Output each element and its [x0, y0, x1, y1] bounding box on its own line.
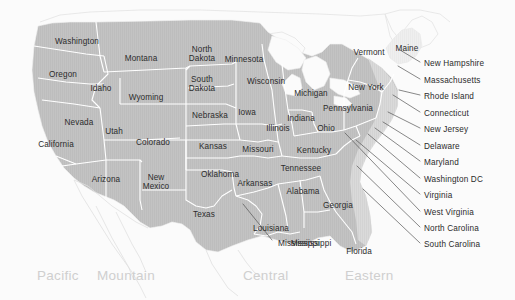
state-label-line: Vermont	[353, 48, 384, 57]
state-label-georgia: Georgia	[323, 201, 353, 210]
state-label-colorado: Colorado	[136, 138, 170, 147]
state-label-line: Arizona	[92, 175, 120, 184]
state-label-louisiana: Louisiana	[253, 224, 289, 233]
state-label-maine: Maine	[396, 44, 419, 53]
us-timezone-map: WashingtonOregonMontanaIdahoWyomingNorth…	[0, 0, 515, 300]
state-label-line: Dakota	[189, 54, 216, 63]
state-label-line: Michigan	[294, 89, 328, 98]
state-label-line: Ohio	[317, 124, 335, 133]
state-label-line: North	[189, 45, 216, 54]
state-label-indiana: Indiana	[287, 114, 315, 123]
state-label-south-dakota: SouthDakota	[189, 75, 216, 94]
state-label-line: Alabama	[286, 187, 319, 196]
state-label-missouri: Missouri	[242, 145, 273, 154]
state-label-line: Oklahoma	[201, 170, 239, 179]
state-label-line: Tennessee	[281, 164, 322, 173]
callout-label-virginia: Virginia	[424, 191, 452, 200]
callout-label-new-hampshire: New Hampshire	[424, 59, 484, 68]
state-label-arizona: Arizona	[92, 175, 120, 184]
state-label-ohio: Ohio	[317, 124, 335, 133]
state-label-line: New York	[348, 83, 383, 92]
state-label-idaho: Idaho	[91, 84, 112, 93]
callout-label-north-carolina: North Carolina	[424, 224, 479, 233]
callout-label-connecticut: Connecticut	[424, 109, 469, 118]
callout-label-rhode-island: Rhode Island	[424, 92, 474, 101]
state-label-utah: Utah	[105, 127, 123, 136]
state-label-kansas: Kansas	[199, 142, 227, 151]
state-label-wisconsin: Wisconsin	[247, 77, 285, 86]
callout-label-delaware: Delaware	[424, 142, 460, 151]
state-label-line: South	[189, 75, 216, 84]
state-label-line: New	[143, 173, 170, 182]
state-label-line: Wisconsin	[247, 77, 285, 86]
state-label-washington: Washington	[55, 37, 99, 46]
callout-label-mississippi: Mississippi	[278, 239, 319, 248]
state-label-new-mexico: NewMexico	[143, 173, 170, 192]
state-label-california: California	[38, 140, 74, 149]
state-label-florida: Florida	[346, 247, 372, 256]
state-label-new-york: New York	[348, 83, 383, 92]
state-label-line: Missouri	[242, 145, 273, 154]
timezone-label-pacific: Pacific	[37, 268, 79, 283]
callout-label-new-jersey: New Jersey	[424, 125, 468, 134]
state-label-nebraska: Nebraska	[192, 111, 228, 120]
state-label-line: Texas	[193, 210, 215, 219]
state-label-iowa: Iowa	[238, 108, 256, 117]
state-label-line: Colorado	[136, 138, 170, 147]
timezone-label-eastern: Eastern	[345, 268, 394, 283]
callout-label-maryland: Maryland	[424, 158, 459, 167]
callout-label-washington-dc: Washington DC	[424, 175, 483, 184]
state-label-wyoming: Wyoming	[129, 93, 164, 102]
state-label-line: Washington	[55, 37, 99, 46]
state-label-line: Wyoming	[129, 93, 164, 102]
state-label-line: Indiana	[287, 114, 315, 123]
state-label-line: Louisiana	[253, 224, 289, 233]
state-label-oklahoma: Oklahoma	[201, 170, 239, 179]
state-label-line: Mexico	[143, 182, 170, 191]
state-label-vermont: Vermont	[353, 48, 384, 57]
state-label-line: Utah	[105, 127, 123, 136]
state-label-michigan: Michigan	[294, 89, 328, 98]
timezone-label-mountain: Mountain	[97, 268, 155, 283]
callout-label-south-carolina: South Carolina	[424, 240, 480, 249]
state-label-kentucky: Kentucky	[297, 146, 331, 155]
state-label-line: Florida	[346, 247, 372, 256]
state-label-arkansas: Arkansas	[238, 179, 273, 188]
state-label-line: Kansas	[199, 142, 227, 151]
state-label-line: Georgia	[323, 201, 353, 210]
timezone-label-central: Central	[243, 268, 289, 283]
state-label-line: Arkansas	[238, 179, 273, 188]
state-label-oregon: Oregon	[49, 70, 77, 79]
state-label-line: Idaho	[91, 84, 112, 93]
state-label-line: California	[38, 140, 74, 149]
state-label-line: Illinois	[266, 124, 290, 133]
callout-label-massachusetts: Massachusetts	[424, 76, 481, 85]
state-label-line: Oregon	[49, 70, 77, 79]
state-label-line: Kentucky	[297, 146, 331, 155]
state-label-line: Nebraska	[192, 111, 228, 120]
state-label-line: Montana	[125, 54, 158, 63]
state-label-alabama: Alabama	[286, 187, 319, 196]
state-label-minnesota: Minnesota	[225, 55, 264, 64]
state-label-north-dakota: NorthDakota	[189, 45, 216, 64]
state-label-line: Maine	[396, 44, 419, 53]
state-label-nevada: Nevada	[65, 118, 94, 127]
state-label-line: Pennsylvania	[323, 104, 373, 113]
state-label-line: Dakota	[189, 84, 216, 93]
state-label-montana: Montana	[125, 54, 158, 63]
state-label-illinois: Illinois	[266, 124, 290, 133]
state-label-texas: Texas	[193, 210, 215, 219]
state-label-line: Nevada	[65, 118, 94, 127]
state-label-line: Iowa	[238, 108, 256, 117]
callout-label-west-virginia: West Virginia	[424, 208, 474, 217]
state-label-tennessee: Tennessee	[281, 164, 322, 173]
state-label-line: Minnesota	[225, 55, 264, 64]
state-label-pennsylvania: Pennsylvania	[323, 104, 373, 113]
